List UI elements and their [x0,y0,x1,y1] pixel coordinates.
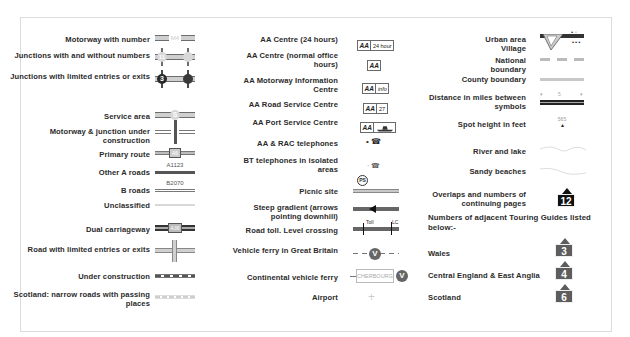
touring-guide-badge-central-england: 4 [555,267,573,280]
page-overlap-badge: 12 [557,194,575,207]
spot-height-symbol: 565 ▴ [556,116,568,128]
legend-label-picnic: Picnic site [230,187,338,196]
touring-guides-heading: Numbers of adjacent Touring Guides liste… [428,213,598,233]
ship-icon [373,123,395,132]
legend-label-service-area: Service area [10,112,150,121]
touring-guide-badge-wales: 3 [555,244,573,257]
ferry-continental-symbol: CHERBOURG V [350,268,410,284]
touring-guide-central-england: Central England & East Anglia [428,271,558,280]
legend-label-dual-carriageway: Dual carriageway [10,225,150,234]
primary-route-symbol: A6 [155,148,195,158]
legend-label-distance: Distance in miles between symbols [420,93,526,111]
aa-24-symbol: AA24 hour [357,34,394,52]
motorway-construction-symbol [155,120,195,144]
legend-label-a-roads: Other A roads [10,168,150,177]
limited-junctions-symbol: 3 [155,70,195,88]
arrow-left-icon [369,205,379,213]
aa-office-symbol: AA [367,54,381,72]
legend-label-sandy-beaches: Sandy beaches [460,167,526,176]
junctions-symbol: 11 [155,48,195,66]
legend-label-junctions: Junctions with and without numbers [10,51,150,60]
legend-label-motorway-construction: Motorway & junction under construction [10,127,150,145]
motorway-symbol: M4 [155,34,195,42]
sandy-beaches-symbol [540,165,586,179]
legend-label-aa-rac-phone: AA & RAC telephones [230,139,338,148]
legend-label-under-construction: Under construction [10,272,150,281]
legend-label-county-boundary: County boundary [460,75,526,84]
unclassified-symbol [155,204,195,206]
limited-road-symbol [155,240,195,262]
legend-label-b-roads: B roads [10,186,150,195]
aa-info-symbol: AAinfo [362,77,389,95]
legend-label-aa-port: AA Port Service Centre [230,118,338,127]
dual-carriageway-symbol: A38 [155,223,195,233]
legend-label-ferry-gb: Vehicle ferry in Great Britain [230,246,338,255]
legend-label-urban-village: Urban area Village [460,35,526,53]
urban-village-symbol: • ◦ ••• [540,28,586,50]
legend-label-narrow-roads: Scotland: narrow roads with passing plac… [10,290,150,308]
under-construction-symbol [155,274,195,278]
legend-label-aa-info: AA Motorway Information Centre [230,76,338,94]
legend-label-national-boundary: National boundary [460,56,526,74]
ferry-gb-symbol: V [353,248,399,260]
river-lake-symbol [540,143,586,157]
county-boundary-symbol [540,78,584,81]
toll-crossing-symbol: Toll LC [353,219,399,235]
touring-guide-scotland: Scotland [428,293,548,302]
distance-symbol: ▾ 5 ▾ [540,91,584,107]
legend-label-page-overlap: Overlaps and numbers of continuing pages [420,190,526,208]
legend-label-motorway: Motorway with number [10,35,150,44]
picnic-symbol: PS [353,175,399,195]
legend-label-ferry-continental: Continental vehicle ferry [230,273,338,282]
legend-label-aa-office: AA Centre (normal office hours) [230,51,338,69]
legend-label-aa-road-service: AA Road Service Centre [230,100,338,109]
telephone-icon: • ☎ [366,137,381,146]
service-area-symbol: S [155,110,195,120]
steep-gradient-symbol [353,205,399,213]
picnic-icon: PS [357,175,368,186]
legend-label-limited-junctions: Junctions with limited entries or exits [10,72,150,81]
legend-label-bt-phone: BT telephones in isolated areas [230,156,338,174]
legend-label-primary-route: Primary route [10,150,150,159]
legend-label-steep-gradient: Steep gradient (arrows pointing downhill… [230,203,338,221]
b-road-symbol: B2070 [155,180,195,194]
legend-label-airport: Airport [230,293,338,302]
national-boundary-symbol [540,58,584,61]
legend-label-toll-crossing: Road toll. Level crossing [230,226,338,235]
touring-guide-wales: Wales [428,249,548,258]
legend-label-aa-24: AA Centre (24 hours) [230,35,338,44]
aa-road-service-symbol: AA27 [363,97,388,115]
aa-port-symbol: AA [360,116,396,134]
legend-label-unclassified: Unclassified [10,201,150,210]
legend-label-river-lake: River and lake [460,147,526,156]
a-road-symbol: A1123 [155,162,195,176]
legend-label-spot-height: Spot height in feet [440,120,526,129]
bt-telephone-icon: · ☎ [367,162,380,170]
legend-label-limited-road: Road with limited entries or exits [10,245,150,254]
narrow-roads-symbol [155,295,195,299]
airport-icon: + [368,290,375,304]
touring-guide-badge-scotland: 6 [555,290,573,303]
